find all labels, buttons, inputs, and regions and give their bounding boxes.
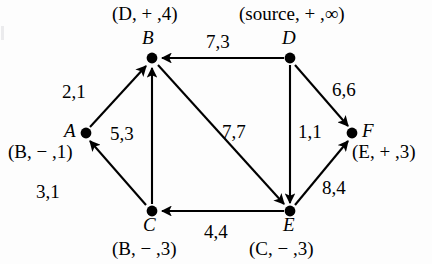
- edge-label-e-f: 8,4: [322, 178, 346, 197]
- node-letter-d: D: [282, 28, 296, 47]
- node-label-a: (B, − ,1): [8, 142, 73, 161]
- edge-c-a: [90, 141, 146, 205]
- edge-a-b: [90, 66, 146, 127]
- node-letter-c: C: [143, 215, 156, 234]
- edge-b-e: [158, 65, 284, 204]
- node-label-b: (D, + ,4): [112, 4, 178, 23]
- node-label-e: (C, − ,3): [249, 239, 314, 258]
- node-dot-a: [81, 128, 92, 139]
- edge-label-d-e: 1,1: [298, 122, 322, 141]
- node-dot-b: [147, 53, 158, 64]
- edge-label-c-a: 3,1: [36, 182, 60, 201]
- edge-label-b-e: 7,7: [222, 122, 246, 141]
- node-dot-d: [285, 53, 296, 64]
- flow-network-figure: B D A F C E (D, + ,4) (source, + ,∞) (B,…: [0, 0, 432, 264]
- node-letter-a: A: [64, 121, 76, 140]
- edge-label-a-b: 2,1: [62, 82, 86, 101]
- node-label-f: (E, + ,3): [352, 142, 415, 161]
- node-letter-b: B: [142, 28, 154, 47]
- edge-label-d-f: 6,6: [332, 80, 356, 99]
- edge-label-e-c: 4,4: [204, 222, 228, 241]
- node-letter-e: E: [283, 215, 295, 234]
- node-letter-f: F: [362, 121, 374, 140]
- node-label-c: (B, − ,3): [112, 239, 177, 258]
- node-label-d: (source, + ,∞): [239, 4, 345, 23]
- node-dot-f: [347, 128, 358, 139]
- edge-label-c-b: 5,3: [110, 124, 134, 143]
- edge-label-d-b: 7,3: [206, 32, 230, 51]
